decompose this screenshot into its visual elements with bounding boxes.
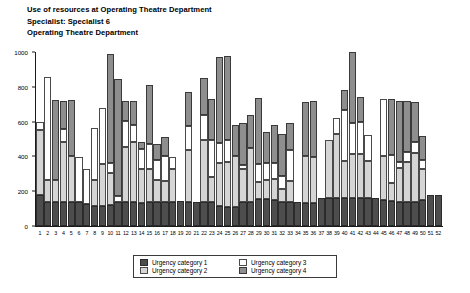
bar-segment-category-1 <box>364 198 371 226</box>
bar-segment-category-1 <box>68 202 75 226</box>
bar-week-24 <box>216 52 223 226</box>
bar-week-19 <box>177 52 184 226</box>
x-axis-tick-label: 46 <box>388 229 396 241</box>
bar-week-13 <box>130 52 137 226</box>
bar-segment-category-3 <box>263 163 270 180</box>
bar-week-38 <box>325 52 332 226</box>
bar-week-10 <box>107 52 114 226</box>
bar-week-34 <box>294 52 301 226</box>
bar-segment-category-1 <box>263 199 270 226</box>
bar-segment-category-3 <box>278 176 285 188</box>
x-axis-tick-label: 21 <box>192 229 200 241</box>
bar-segment-category-3 <box>286 150 293 180</box>
bar-segment-category-1 <box>325 198 332 226</box>
bar-week-2 <box>44 52 51 226</box>
bar-segment-category-1 <box>224 207 231 226</box>
bar-segment-category-3 <box>349 123 356 153</box>
x-axis-tick-label: 13 <box>130 229 138 241</box>
bar-week-48 <box>403 52 410 226</box>
bar-segment-category-2 <box>286 181 293 202</box>
x-axis-tick-label: 20 <box>184 229 192 241</box>
bar-segment-category-1 <box>146 202 153 226</box>
bar-week-32 <box>278 52 285 226</box>
x-axis-tick-label: 26 <box>231 229 239 241</box>
bar-segment-category-3 <box>411 142 418 152</box>
bar-segment-category-1 <box>169 202 176 226</box>
bar-segment-category-2 <box>60 142 67 202</box>
x-axis-tick-label: 17 <box>161 229 169 241</box>
bar-segment-category-4 <box>208 99 215 140</box>
bar-week-23 <box>208 52 215 226</box>
x-axis-tick-label: 35 <box>302 229 310 241</box>
bar-segment-category-3 <box>122 121 129 147</box>
bar-segment-category-1 <box>52 202 59 226</box>
bar-week-7 <box>83 52 90 226</box>
bar-segment-category-4 <box>185 92 192 126</box>
bar-segment-category-4 <box>419 136 426 160</box>
bar-segment-category-2 <box>403 162 410 202</box>
bar-segment-category-3 <box>60 129 67 141</box>
bar-week-28 <box>247 52 254 226</box>
x-axis-tick-label: 11 <box>114 229 122 241</box>
bar-segment-category-2 <box>52 180 59 202</box>
legend-swatch-icon <box>140 267 148 274</box>
legend-item-c1[interactable]: Urgency category 1 <box>140 259 231 266</box>
bar-segment-category-1 <box>99 206 106 226</box>
bar-segment-category-4 <box>247 115 254 148</box>
bar-segment-category-2 <box>208 177 215 201</box>
bar-segment-category-4 <box>302 102 309 156</box>
bar-segment-category-2 <box>278 189 285 202</box>
x-axis-line <box>35 226 443 227</box>
x-axis-tick-label: 27 <box>239 229 247 241</box>
bar-segment-category-3 <box>380 99 387 156</box>
bar-week-26 <box>232 52 239 226</box>
bar-segment-category-1 <box>333 198 340 226</box>
bar-week-9 <box>99 52 106 226</box>
x-axis-tick-label: 14 <box>138 229 146 241</box>
legend-item-label: Urgency category 3 <box>251 259 306 266</box>
bar-segment-category-2 <box>169 169 176 201</box>
bar-week-22 <box>200 52 207 226</box>
legend-item-c2[interactable]: Urgency category 2 <box>140 267 231 274</box>
bar-week-4 <box>60 52 67 226</box>
x-axis-tick-label: 45 <box>380 229 388 241</box>
x-axis-tick-label: 8 <box>91 229 99 241</box>
bar-segment-category-1 <box>177 201 184 226</box>
bar-segment-category-3 <box>83 169 90 205</box>
bar-week-39 <box>333 52 340 226</box>
bar-segment-category-3 <box>200 115 207 140</box>
bar-segment-category-3 <box>271 163 278 180</box>
bar-segment-category-4 <box>349 52 356 123</box>
y-axis-tick-label: 1000 <box>14 49 28 56</box>
legend-item-label: Urgency category 1 <box>152 259 207 266</box>
bar-week-46 <box>388 52 395 226</box>
bar-segment-category-2 <box>146 169 153 202</box>
bar-segment-category-2 <box>396 168 403 202</box>
bar-segment-category-4 <box>388 99 395 155</box>
bar-segment-category-1 <box>200 202 207 226</box>
x-axis-tick-label: 5 <box>67 229 75 241</box>
x-axis-tick-label: 47 <box>395 229 403 241</box>
bar-week-5 <box>68 52 75 226</box>
bar-week-44 <box>372 52 379 226</box>
bar-segment-category-2 <box>380 156 387 200</box>
x-axis-tick-label: 12 <box>122 229 130 241</box>
bar-segment-category-1 <box>435 195 442 226</box>
bar-segment-category-4 <box>122 101 129 121</box>
x-axis-tick-label: 24 <box>216 229 224 241</box>
bar-segment-category-2 <box>364 161 371 198</box>
bar-week-51 <box>427 52 434 226</box>
bar-segment-category-1 <box>357 198 364 226</box>
x-axis-tick-label: 6 <box>75 229 83 241</box>
title-line-3: Operating Theatre Department <box>27 27 212 39</box>
bar-week-16 <box>153 52 160 226</box>
legend-item-c3[interactable]: Urgency category 3 <box>239 259 330 266</box>
x-axis-tick-label: 29 <box>255 229 263 241</box>
bar-segment-category-2 <box>99 164 106 206</box>
bar-segment-category-4 <box>114 79 121 196</box>
bar-segment-category-3 <box>364 135 371 161</box>
legend-item-c4[interactable]: Urgency category 4 <box>239 267 330 274</box>
x-axis-tick-label: 38 <box>325 229 333 241</box>
bar-segment-category-2 <box>130 142 137 201</box>
bar-segment-category-4 <box>357 97 364 121</box>
